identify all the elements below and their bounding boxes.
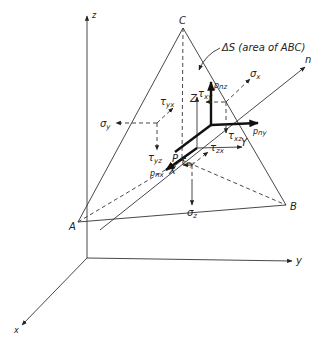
y-axis-label: y — [295, 255, 303, 266]
x-axis-label: x — [13, 326, 19, 335]
svg-text:τxz: τxz — [228, 130, 242, 143]
svg-text:pnz: pnz — [213, 81, 228, 91]
svg-text:Z: Z — [189, 93, 198, 104]
tau-zx-arrow — [192, 152, 208, 165]
sigma-x-arrow — [226, 79, 250, 102]
z-axis-label: z — [91, 11, 97, 20]
svg-text:τyx: τyx — [160, 96, 175, 109]
svg-text:pny: pny — [252, 127, 268, 137]
area-leader — [199, 48, 220, 70]
vertex-b-label: B — [290, 201, 297, 212]
x-axis — [22, 258, 87, 325]
normal-label: n — [305, 54, 311, 65]
tau-yx-arrow — [157, 108, 173, 123]
area-annotation: ΔS (area of ABC) — [221, 42, 305, 53]
svg-text:σx: σx — [250, 68, 261, 81]
x-face-stresses: σx τxy τxz — [198, 68, 261, 143]
vertex-c-label: C — [179, 15, 186, 26]
svg-text:τzx: τzx — [210, 142, 225, 155]
pny-arrow — [211, 123, 258, 125]
y-axis — [87, 258, 292, 261]
svg-text:τyz: τyz — [148, 152, 162, 165]
vertex-a-label: A — [68, 221, 76, 232]
svg-text:σz: σz — [187, 207, 197, 220]
svg-text:σy: σy — [100, 118, 111, 131]
svg-text:pnx: pnx — [149, 169, 165, 179]
z-face-stresses: σz τzx τzy — [180, 142, 225, 220]
y-face-stresses: σy τyz τyx — [100, 96, 175, 165]
stress-tetrahedron-diagram: z y x C A B P ΔS (area of ABC) n Z Y X p… — [0, 0, 315, 344]
svg-text:Y: Y — [241, 137, 248, 148]
